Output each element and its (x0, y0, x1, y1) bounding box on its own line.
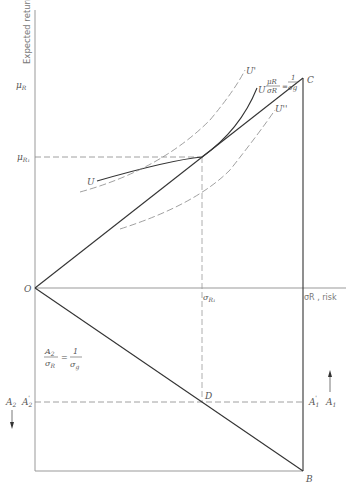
upper-equation: μR σR = 1 σg (266, 74, 298, 95)
y-axis-label: Expected return (22, 0, 32, 64)
sigma-r1-label: σR₁ (203, 293, 215, 303)
a1-prime-label: A1' (308, 394, 319, 408)
svg-text:A2: A2 (44, 347, 55, 357)
mu-r1-label: μR₁ (17, 152, 30, 163)
indifference-curve-u (97, 88, 257, 181)
origin-label: O (24, 284, 32, 294)
indifference-curve-u-double-prime (120, 110, 275, 229)
svg-text:1: 1 (291, 74, 295, 82)
indifference-curve-u-prime (80, 70, 245, 192)
mu-r-label: μR (16, 80, 27, 91)
curve-u-prime-label: U' (246, 66, 256, 76)
x-axis-label: σR , risk (304, 293, 337, 302)
a1-arrow-up-icon (328, 370, 332, 377)
a2-prime-label: A2' (21, 394, 33, 408)
a1-arrow-label: A1 (325, 397, 336, 408)
svg-text:σR: σR (45, 359, 55, 369)
svg-text:σg: σg (70, 360, 79, 371)
svg-text:1: 1 (73, 347, 78, 356)
a2-arrow-label: A2 (5, 397, 17, 408)
point-d-label: D (204, 391, 212, 401)
svg-text:σR: σR (267, 87, 278, 95)
hedge-line (35, 288, 303, 471)
curve-u-double-prime-label: U'' (275, 104, 288, 114)
lower-equation: A2 σR = 1 σg (44, 347, 82, 371)
capital-market-line (35, 78, 303, 288)
curve-u-top-label: U (258, 85, 266, 95)
portfolio-risk-return-diagram: Expected return O C B D μR μR₁ A2' σR₁ σ… (0, 0, 349, 487)
point-b-label: B (305, 474, 313, 484)
svg-text:=: = (61, 353, 68, 362)
a2-arrow-down-icon (10, 422, 14, 429)
svg-text:σg: σg (288, 84, 298, 92)
point-c-label: C (307, 75, 314, 85)
svg-text:μR: μR (267, 78, 278, 86)
curve-u-label: U (87, 177, 95, 187)
